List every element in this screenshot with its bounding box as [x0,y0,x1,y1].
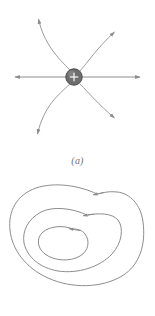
loop-outer [10,185,144,286]
loop-inner [38,227,88,260]
panel-a-caption: (a) [0,155,155,167]
panel-b-closed-loops: (b) [0,172,155,316]
field-line-upper-right [80,32,115,71]
panel-b-diagram [0,172,155,316]
field-line-upper-left [39,19,71,70]
panel-a-point-charge: (a) [0,0,155,172]
field-line-lower-right [80,84,115,118]
field-line-lower-left [38,84,71,134]
figure-root: (a) (b) [0,0,155,316]
panel-a-diagram [0,0,155,155]
